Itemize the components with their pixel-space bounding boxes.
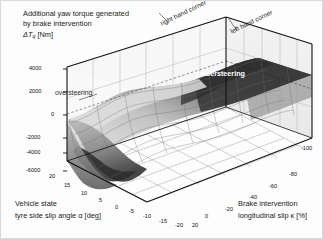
x-tick-10: 10 (81, 190, 87, 197)
plot-title: Additional yaw torque generated by brake… (23, 9, 129, 40)
z-tick--6000: -6000 (26, 167, 40, 174)
y-axis-label-line-1: Brake intervention (238, 199, 298, 208)
y-tick-0: 0 (205, 213, 208, 220)
plot-title-line-3: ΔTq [Nm] (23, 30, 129, 40)
z-axis-unit: [Nm] (35, 30, 53, 39)
x-tick-15: 15 (64, 182, 70, 189)
x-tick--10: -10 (143, 213, 151, 220)
scene-group (63, 13, 312, 202)
plot-title-line-1: Additional yaw torque generated (23, 9, 129, 18)
x-tick--15: -15 (159, 218, 167, 225)
z-axis-ticks (63, 69, 67, 171)
x-axis-corner-tick: 20 (192, 222, 198, 229)
z-tick-2000: 2000 (29, 88, 41, 95)
figure-3d-surface-plot: Additional yaw torque generated by brake… (0, 0, 323, 239)
x-axis-label-line-1: Vehicle state (15, 199, 57, 208)
x-tick--5: -5 (129, 208, 134, 215)
y-axis-label-line-2: longitudinal slip κ [%] (238, 211, 307, 220)
annotation-understeering: understeering (197, 69, 245, 78)
x-tick-20: 20 (49, 173, 55, 180)
z-tick--2000: -2000 (26, 134, 40, 141)
z-tick-4000: 4000 (29, 65, 41, 72)
y-tick--80: -80 (289, 171, 297, 178)
x-tick-5: 5 (99, 197, 102, 204)
x-tick-0: 0 (115, 204, 118, 211)
y-tick--20: -20 (225, 206, 233, 213)
y-tick--60: -60 (269, 183, 277, 190)
plot-title-line-2: by brake intervention (23, 19, 129, 28)
z-tick--4000: -4000 (26, 149, 40, 156)
x-tick--20: -20 (175, 222, 183, 229)
y-tick--100: -100 (301, 145, 312, 152)
x-axis-label-line-2: tyre side slip angle α [deg] (15, 211, 101, 220)
z-tick-0: 0 (51, 111, 54, 118)
annotation-oversteering: oversteering (55, 89, 92, 97)
